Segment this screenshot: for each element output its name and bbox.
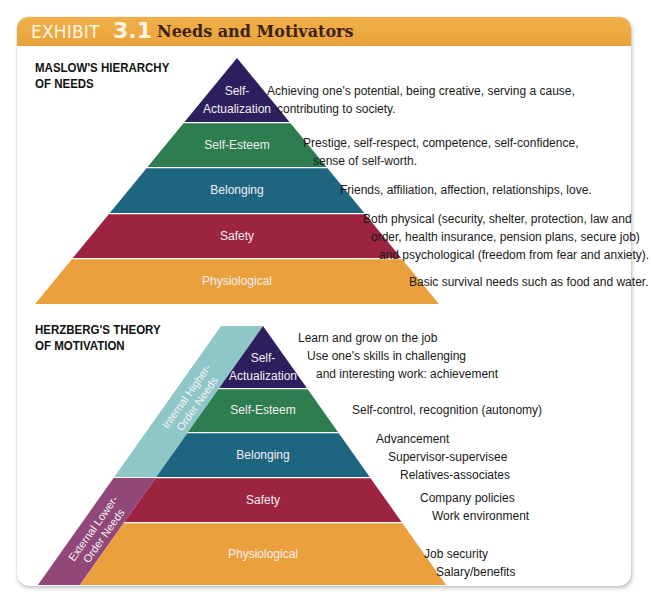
maslow-label-physiological: Physiological	[202, 274, 272, 288]
maslow-desc-safety: Both physical (security, shelter, protec…	[363, 212, 649, 262]
herzberg-label-self-esteem-line: Self-Esteem	[230, 403, 295, 417]
herzberg-desc-safety-line: Work environment	[432, 509, 530, 523]
herzberg-desc-safety: Company policiesWork environment	[420, 491, 530, 523]
herzberg-desc-physiological-line: Job security	[424, 547, 488, 561]
herzberg-desc-self-actualization-line: Use one's skills in challenging	[307, 349, 466, 363]
maslow-desc-self-actualization-line: contributing to society.	[277, 102, 396, 116]
maslow-label-safety-line: Safety	[220, 229, 254, 243]
herzberg-label-self-actualization-line: Self-	[251, 351, 276, 365]
herzberg-label-safety: Safety	[246, 493, 280, 507]
herzberg-desc-physiological-line: Salary/benefits	[436, 565, 515, 579]
maslow-label-belonging-line: Belonging	[210, 183, 263, 197]
maslow-pyramid: Self-ActualizationAchieving one's potent…	[35, 58, 649, 304]
maslow-desc-physiological-line: Basic survival needs such as food and wa…	[409, 275, 648, 289]
herzberg-label-self-esteem: Self-Esteem	[230, 403, 295, 417]
herzberg-desc-belonging-line: Supervisor-supervisee	[388, 450, 508, 464]
maslow-desc-self-actualization: Achieving one's potential, being creativ…	[267, 84, 575, 116]
herzberg-desc-belonging-line: Advancement	[376, 432, 450, 446]
herzberg-label-physiological-line: Physiological	[228, 547, 298, 561]
maslow-desc-safety-line: Both physical (security, shelter, protec…	[363, 212, 632, 226]
maslow-desc-self-esteem-line: sense of self-worth.	[313, 154, 417, 168]
maslow-desc-safety-line: and psychological (freedom from fear and…	[379, 248, 649, 262]
maslow-desc-safety-line: order, health insurance, pension plans, …	[371, 230, 640, 244]
herzberg-desc-self-actualization: Learn and grow on the jobUse one's skill…	[298, 331, 499, 381]
herzberg-label-belonging-line: Belonging	[236, 448, 289, 462]
maslow-desc-physiological: Basic survival needs such as food and wa…	[409, 275, 648, 289]
herzberg-label-belonging: Belonging	[236, 448, 289, 462]
maslow-desc-self-esteem-line: Prestige, self-respect, competence, self…	[303, 136, 578, 150]
herzberg-desc-belonging-line: Relatives-associates	[400, 468, 510, 482]
maslow-desc-self-actualization-line: Achieving one's potential, being creativ…	[267, 84, 575, 98]
herzberg-desc-self-esteem-line: Self-control, recognition (autonomy)	[352, 403, 542, 417]
herzberg-label-safety-line: Safety	[246, 493, 280, 507]
maslow-label-self-esteem-line: Self-Esteem	[204, 138, 269, 152]
maslow-desc-belonging-line: Friends, affiliation, affection, relatio…	[340, 183, 592, 197]
maslow-desc-self-esteem: Prestige, self-respect, competence, self…	[303, 136, 578, 168]
herzberg-label-self-actualization-line: Actualization	[229, 369, 297, 383]
maslow-label-self-actualization-line: Self-	[225, 84, 250, 98]
herzberg-desc-self-actualization-line: and interesting work: achievement	[316, 367, 499, 381]
maslow-desc-belonging: Friends, affiliation, affection, relatio…	[340, 183, 592, 197]
herzberg-desc-self-esteem: Self-control, recognition (autonomy)	[352, 403, 542, 417]
maslow-label-physiological-line: Physiological	[202, 274, 272, 288]
herzberg-desc-self-actualization-line: Learn and grow on the job	[298, 331, 438, 345]
needs-diagram: Self-ActualizationAchieving one's potent…	[0, 0, 651, 600]
maslow-label-self-actualization-line: Actualization	[203, 102, 271, 116]
herzberg-desc-physiological: Job securitySalary/benefits	[424, 547, 515, 579]
herzberg-pyramid: Internal Higher-Order NeedsExternal Lowe…	[38, 326, 542, 585]
herzberg-desc-belonging: AdvancementSupervisor-superviseeRelative…	[376, 432, 510, 482]
herzberg-label-physiological: Physiological	[228, 547, 298, 561]
maslow-label-safety: Safety	[220, 229, 254, 243]
maslow-label-belonging: Belonging	[210, 183, 263, 197]
maslow-label-self-esteem: Self-Esteem	[204, 138, 269, 152]
herzberg-desc-safety-line: Company policies	[420, 491, 515, 505]
